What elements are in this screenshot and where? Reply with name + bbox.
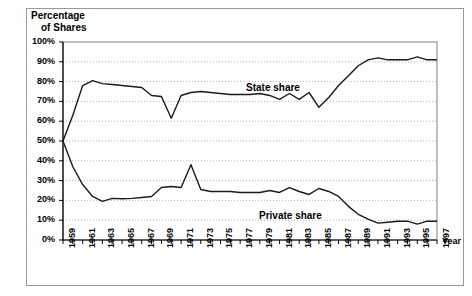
- chart-figure: Percentageof Shares 0%10%20%30%40%50%60%…: [0, 0, 472, 296]
- x-tick-label: 1967: [146, 228, 156, 248]
- x-tick-label: 1989: [362, 228, 372, 248]
- y-tick-label: 0%: [19, 234, 55, 244]
- x-tick-label: 1965: [126, 228, 136, 248]
- y-tick-label: 60%: [19, 115, 55, 125]
- series-annotation: Private share: [259, 210, 322, 221]
- x-tick-label: 1963: [106, 228, 116, 248]
- series-line-state-share: [63, 57, 437, 141]
- x-tick-label: 1975: [224, 228, 234, 248]
- x-tick-label: 1995: [421, 228, 431, 248]
- y-tick-label: 80%: [19, 76, 55, 86]
- plot-area: [0, 0, 472, 296]
- y-tick-label: 10%: [19, 214, 55, 224]
- series-line-private-share: [63, 141, 437, 224]
- x-tick-label: 1971: [185, 228, 195, 248]
- y-tick-label: 100%: [19, 36, 55, 46]
- x-tick-label: 1985: [323, 228, 333, 248]
- x-tick-label: 1987: [343, 228, 353, 248]
- y-tick-label: 70%: [19, 95, 55, 105]
- x-tick-label: 1979: [264, 228, 274, 248]
- y-tick-label: 50%: [19, 135, 55, 145]
- series-annotation: State share: [246, 82, 300, 93]
- x-tick-label: 1959: [67, 228, 77, 248]
- y-tick-label: 90%: [19, 56, 55, 66]
- y-tick-label: 30%: [19, 175, 55, 185]
- x-tick-label: 1977: [244, 228, 254, 248]
- x-tick-label: 1993: [402, 228, 412, 248]
- x-axis-title: Year: [442, 236, 461, 246]
- x-tick-label: 1969: [165, 228, 175, 248]
- x-tick-label: 1961: [87, 228, 97, 248]
- y-tick-label: 20%: [19, 194, 55, 204]
- y-tick-label: 40%: [19, 155, 55, 165]
- x-tick-label: 1981: [284, 228, 294, 248]
- x-tick-label: 1973: [205, 228, 215, 248]
- x-tick-label: 1991: [382, 228, 392, 248]
- x-axis-ticks: [63, 42, 437, 244]
- x-tick-label: 1983: [303, 228, 313, 248]
